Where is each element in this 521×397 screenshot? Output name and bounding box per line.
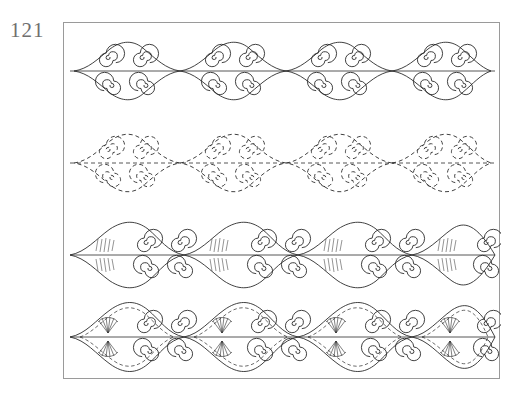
figure-frame: [63, 22, 500, 379]
spiral-wave-hatched-band: [64, 215, 501, 295]
plate-number: 121: [10, 18, 45, 43]
spiral-wave-outline-band: [64, 31, 501, 111]
plate-page: 121: [0, 0, 521, 397]
spiral-wave-dashed-band: [64, 123, 501, 203]
spiral-wave-filled-band: [64, 295, 501, 379]
